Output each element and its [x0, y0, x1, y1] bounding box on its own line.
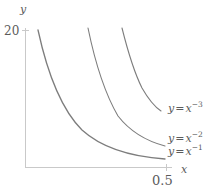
curve-y-equals-x-minus-3	[122, 28, 161, 111]
y-tick-label-20: 20	[4, 25, 19, 37]
curve-label-2-equals: =	[174, 145, 185, 158]
x-axis-label: x	[181, 164, 187, 175]
curve-label-1-equals: =	[174, 132, 185, 145]
curve-label-x-minus-1: y=x−1	[168, 146, 203, 157]
x-tick-label-0.5: 0.5	[152, 174, 173, 187]
function-plot-figure: y x 20 0.5 y=x−3 y=x−2 y=x−1	[0, 0, 220, 193]
curve-label-0-exponent: −3	[192, 100, 203, 109]
y-axis-label: y	[20, 4, 26, 15]
curve-label-x-minus-2: y=x−2	[168, 133, 203, 144]
curve-label-1-exponent: −2	[192, 130, 203, 139]
curve-label-2-exponent: −1	[192, 143, 203, 152]
curve-label-0-equals: =	[174, 102, 185, 115]
curve-label-x-minus-3: y=x−3	[168, 103, 203, 114]
